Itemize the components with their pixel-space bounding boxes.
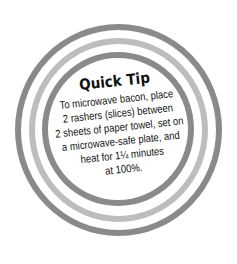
quick-tip-block: Quick Tip To microwave bacon, place 2 ra… [39,64,199,183]
tip-body: To microwave bacon, place 2 rashers (sli… [52,85,189,182]
